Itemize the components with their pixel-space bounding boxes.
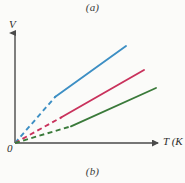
series-line-3-solid-segment bbox=[71, 88, 156, 126]
plot-area bbox=[0, 0, 185, 183]
figure-container: (a) V T (K 0 (b) bbox=[0, 0, 185, 183]
y-axis-label: V bbox=[9, 18, 16, 30]
series-line-2 bbox=[15, 70, 144, 143]
x-axis-label: T (K bbox=[163, 135, 183, 147]
panel-caption-bottom: (b) bbox=[0, 165, 185, 177]
series-line-2-solid-segment bbox=[61, 70, 144, 118]
series-line-2-dashed-segment bbox=[15, 117, 62, 143]
series-line-1-solid-segment bbox=[55, 46, 126, 97]
origin-label: 0 bbox=[7, 142, 13, 154]
series-line-1 bbox=[15, 46, 126, 143]
series-line-3 bbox=[15, 88, 156, 143]
